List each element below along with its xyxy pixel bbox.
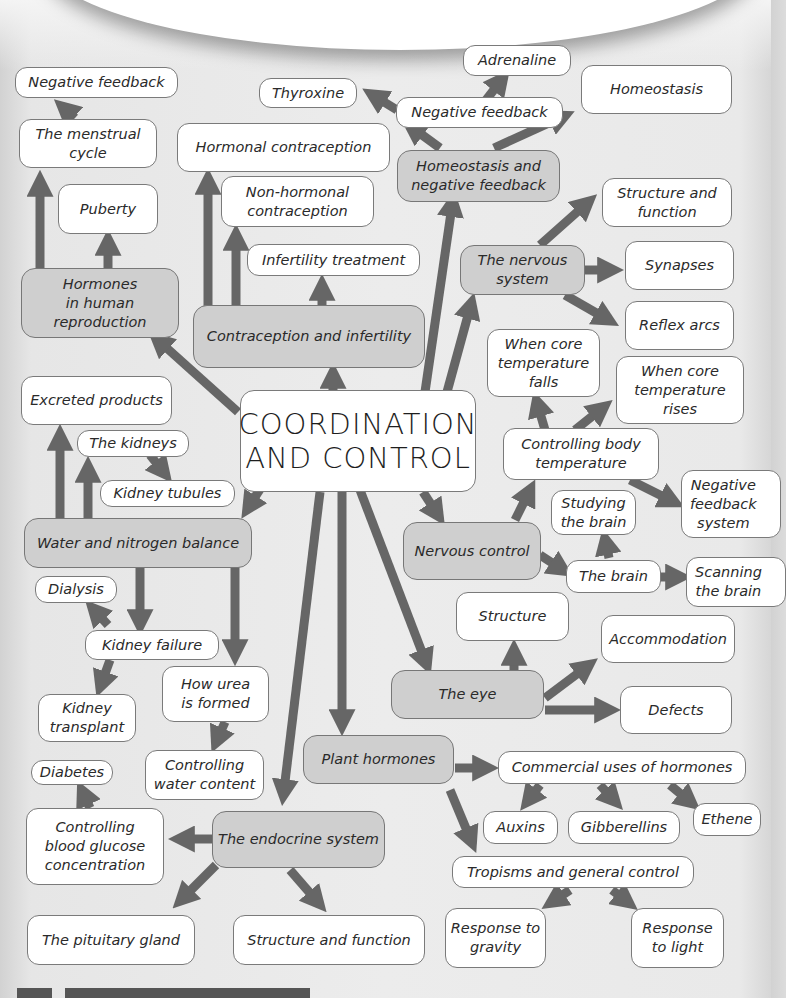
node-adrenaline[interactable]: Adrenaline bbox=[463, 45, 571, 76]
arrow-kidneys-to-tubules bbox=[150, 455, 162, 470]
node-synapses[interactable]: Synapses bbox=[625, 241, 734, 290]
arrow-to-structure-function bbox=[540, 205, 585, 245]
node-negative-feedback-system[interactable]: Negative feedback system bbox=[681, 470, 781, 538]
arrow-to-accommodation bbox=[545, 668, 585, 698]
node-the-kidneys[interactable]: The kidneys bbox=[77, 430, 189, 457]
arrow-to-dialysis bbox=[96, 612, 108, 625]
node-controlling-water-content[interactable]: Controlling water content bbox=[145, 750, 264, 800]
arrow-to-negative-feedback-system bbox=[630, 480, 670, 500]
node-kidney-tubules[interactable]: Kidney tubules bbox=[100, 480, 235, 507]
node-non-hormonal-contraception[interactable]: Non-hormonal contraception bbox=[221, 176, 374, 227]
node-commercial-uses[interactable]: Commercial uses of hormones bbox=[498, 751, 746, 784]
node-eye-structure[interactable]: Structure bbox=[456, 592, 569, 641]
node-thyroxine[interactable]: Thyroxine bbox=[259, 78, 357, 108]
arrow-to-diabetes bbox=[84, 795, 90, 808]
node-puberty[interactable]: Puberty bbox=[58, 184, 158, 234]
topic-contraception[interactable]: Contraception and infertility bbox=[193, 305, 425, 368]
arrow-to-light bbox=[612, 890, 625, 900]
arrow-to-kidney-transplant bbox=[102, 660, 110, 682]
topic-the-eye[interactable]: The eye bbox=[391, 670, 544, 719]
arrow-to-body-temperature bbox=[515, 494, 528, 520]
node-auxins[interactable]: Auxins bbox=[483, 811, 558, 844]
node-blood-glucose[interactable]: Controlling blood glucose concentration bbox=[26, 808, 164, 885]
arrow-to-studying-brain bbox=[606, 544, 609, 558]
topic-hormones-reproduction[interactable]: Hormones in human reproduction bbox=[21, 268, 179, 338]
node-infertility-treatment[interactable]: Infertility treatment bbox=[247, 244, 420, 276]
node-ethene[interactable]: Ethene bbox=[693, 803, 761, 836]
node-response-to-light[interactable]: Response to light bbox=[631, 908, 724, 968]
node-defects[interactable]: Defects bbox=[620, 686, 732, 734]
node-studying-the-brain[interactable]: Studying the brain bbox=[551, 490, 636, 535]
arrow-to-negative-feedback-h bbox=[414, 129, 440, 148]
arrow-to-thyroxine bbox=[376, 97, 397, 110]
arrow-to-gravity bbox=[555, 890, 570, 900]
footer-bar-right bbox=[65, 988, 310, 998]
arrow-to-water-content bbox=[218, 722, 225, 738]
node-temperature-falls[interactable]: When core temperature falls bbox=[487, 329, 600, 397]
arrow-to-ethene bbox=[670, 785, 688, 800]
node-response-to-gravity[interactable]: Response to gravity bbox=[445, 908, 546, 968]
central-topic[interactable]: COORDINATION AND CONTROL bbox=[240, 390, 476, 492]
node-how-urea-is-formed[interactable]: How urea is formed bbox=[162, 666, 269, 722]
node-reflex-arcs[interactable]: Reflex arcs bbox=[625, 301, 734, 350]
node-negative-feedback-homeostasis[interactable]: Negative feedback bbox=[396, 97, 563, 128]
arrow-to-gibberellins bbox=[600, 785, 612, 798]
node-scanning-the-brain[interactable]: Scanning the brain bbox=[686, 557, 786, 607]
node-endocrine-structure-function[interactable]: Structure and function bbox=[233, 915, 425, 965]
topic-endocrine-system[interactable]: The endocrine system bbox=[212, 811, 385, 868]
node-temperature-rises[interactable]: When core temperature rises bbox=[616, 356, 744, 424]
node-menstrual-cycle[interactable]: The menstrual cycle bbox=[19, 119, 157, 168]
arrow-to-negative-feedback bbox=[66, 110, 75, 118]
arrow-center-to-homeostasis bbox=[425, 206, 452, 392]
node-negative-feedback-reproduction[interactable]: Negative feedback bbox=[15, 67, 178, 98]
node-diabetes[interactable]: Diabetes bbox=[31, 760, 113, 785]
topic-plant-hormones[interactable]: Plant hormones bbox=[303, 735, 454, 784]
topic-nervous-system[interactable]: The nervous system bbox=[460, 245, 585, 295]
node-pituitary-gland[interactable]: The pituitary gland bbox=[27, 915, 195, 965]
node-nervous-structure-function[interactable]: Structure and function bbox=[602, 178, 732, 227]
arrow-to-temp-falls bbox=[538, 406, 545, 430]
node-dialysis[interactable]: Dialysis bbox=[35, 576, 117, 603]
node-tropisms[interactable]: Tropisms and general control bbox=[452, 856, 694, 888]
node-the-brain[interactable]: The brain bbox=[566, 560, 661, 593]
arrow-to-pituitary bbox=[184, 865, 216, 897]
node-gibberellins[interactable]: Gibberellins bbox=[568, 811, 680, 844]
arrow-to-brain bbox=[540, 555, 560, 568]
arrow-to-tropisms bbox=[450, 790, 470, 838]
node-kidney-failure[interactable]: Kidney failure bbox=[85, 630, 219, 660]
node-hormonal-contraception[interactable]: Hormonal contraception bbox=[177, 123, 390, 172]
node-controlling-body-temperature[interactable]: Controlling body temperature bbox=[503, 428, 659, 480]
arrow-center-to-nervous-system bbox=[447, 308, 470, 392]
footer-bar-left bbox=[17, 988, 52, 998]
topic-water-nitrogen-balance[interactable]: Water and nitrogen balance bbox=[24, 518, 252, 568]
node-accommodation[interactable]: Accommodation bbox=[601, 615, 735, 663]
node-excreted-products[interactable]: Excreted products bbox=[21, 376, 172, 425]
topic-homeostasis[interactable]: Homeostasis and negative feedback bbox=[397, 150, 560, 202]
arrow-to-auxins bbox=[530, 785, 540, 798]
arrow-to-reflex-arcs bbox=[565, 295, 605, 318]
node-homeostasis[interactable]: Homeostasis bbox=[581, 65, 732, 114]
arrow-center-to-nervous-control bbox=[423, 492, 436, 512]
arrow-to-temp-rises bbox=[575, 410, 600, 430]
arrow-to-structure-function-e bbox=[290, 870, 316, 900]
node-kidney-transplant[interactable]: Kidney transplant bbox=[38, 694, 136, 742]
topic-nervous-control[interactable]: Nervous control bbox=[403, 522, 541, 580]
